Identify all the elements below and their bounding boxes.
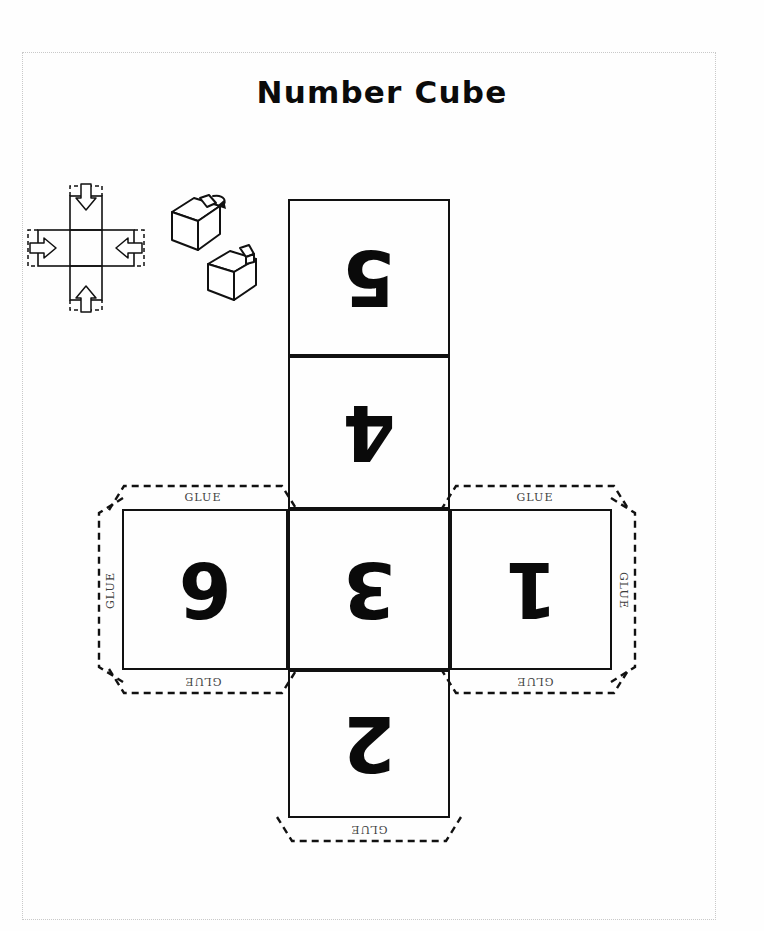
glue-tab-left-side: GLUE: [97, 497, 124, 683]
face-digit: 5: [290, 201, 448, 354]
glue-tab-label: GLUE: [108, 484, 298, 511]
cube-net: GLUE GLUE GLUE GLUE GLUE: [0, 0, 764, 931]
net-face-5: 5: [288, 199, 450, 356]
glue-tab-label: GLUE: [276, 816, 462, 843]
net-face-1: 1: [450, 509, 612, 670]
net-face-6: 6: [122, 509, 288, 670]
net-face-4: 4: [288, 356, 450, 509]
glue-tab-left-top: GLUE: [108, 484, 298, 511]
glue-tab-left-bottom: GLUE: [108, 668, 298, 695]
face-digit: 6: [124, 511, 286, 668]
face-digit: 4: [290, 358, 448, 507]
glue-tab-right-top: GLUE: [440, 484, 630, 511]
glue-tab-label: GLUE: [440, 668, 630, 695]
glue-tab-label: GLUE: [610, 497, 637, 683]
net-face-3: 3: [288, 509, 450, 670]
glue-tab-label: GLUE: [440, 484, 630, 511]
glue-tab-center-bottom: GLUE: [276, 816, 462, 843]
glue-tab-right-bottom: GLUE: [440, 668, 630, 695]
glue-tab-label: GLUE: [108, 668, 298, 695]
face-digit: 2: [290, 672, 448, 816]
face-digit: 1: [452, 511, 610, 668]
net-face-2: 2: [288, 670, 450, 818]
glue-tab-right-side: GLUE: [610, 497, 637, 683]
face-digit: 3: [290, 511, 448, 668]
glue-tab-label: GLUE: [97, 497, 124, 683]
